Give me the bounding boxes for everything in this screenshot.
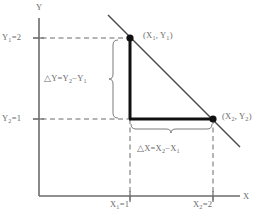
point-label-1-open: (X	[143, 30, 152, 40]
point-label-2: (X2, Y2)	[222, 112, 252, 121]
diagram-canvas	[0, 0, 260, 217]
point-label-1-sub2: 1	[166, 34, 169, 41]
point-label-2-sub2: 2	[245, 115, 248, 122]
slope-line	[108, 15, 240, 147]
x-tick-label-1-eq: =1	[120, 199, 129, 209]
x-tick-label-2-sub: 2	[199, 203, 202, 210]
point-label-2-sub1: 2	[231, 115, 234, 122]
y-tick-label-1-eq: =2	[12, 32, 21, 42]
x-tick-label-2: X2=2	[193, 200, 212, 209]
y-tick-label-1-sub: 1	[8, 36, 11, 43]
y-tick-label-2-sub: 2	[8, 117, 11, 124]
point-label-1: (X1, Y1)	[143, 31, 173, 40]
x-tick-label-1: X1=1	[110, 200, 129, 209]
point-label-1-mid: , Y	[156, 30, 167, 40]
delta-y-brace	[109, 40, 118, 118]
x-tick-label-2-eq: =2	[203, 199, 212, 209]
y-axis-label: Y	[36, 3, 42, 12]
delta-y-term2-sub: 1	[84, 77, 87, 84]
delta-x-term1-sub: 2	[162, 147, 165, 154]
point-label-2-close: )	[249, 111, 252, 121]
point-label-1-sub1: 1	[152, 34, 155, 41]
delta-x-term2-sub: 1	[177, 147, 180, 154]
delta-x-annotation: △X=X2−X1	[137, 144, 180, 153]
point-marker-1	[126, 34, 133, 41]
point-marker-2	[209, 115, 216, 122]
delta-y-term1-sub: 2	[69, 77, 72, 84]
y-tick-label-2-eq: =1	[12, 113, 21, 123]
point-label-1-close: )	[170, 30, 173, 40]
y-tick-label-1: Y1=2	[2, 33, 21, 42]
delta-y-term2: Y	[77, 73, 83, 83]
delta-y-term1: Y	[63, 73, 69, 83]
y-tick-label-2: Y2=1	[2, 114, 21, 123]
delta-y-annotation: △Y=Y2−Y1	[44, 74, 87, 83]
slope-diagram: Y X Y1=2 Y2=1 X1=1 X2=2 (X1, Y1) (X2, Y2…	[0, 0, 260, 217]
x-axis-label: X	[243, 192, 249, 201]
delta-x-brace	[131, 124, 212, 133]
x-tick-label-1-sub: 1	[116, 203, 119, 210]
point-label-2-mid: , Y	[235, 111, 246, 121]
delta-x-term2: X	[170, 143, 176, 153]
delta-x-term1: X	[156, 143, 162, 153]
point-label-2-open: (X	[222, 111, 231, 121]
